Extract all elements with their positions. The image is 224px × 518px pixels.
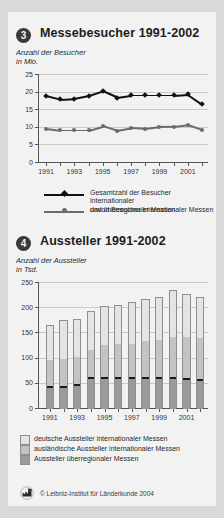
x-axis-tick — [117, 163, 118, 166]
bar-divider — [129, 377, 135, 379]
legend-label: deutsche Aussteller internationaler Mess… — [34, 434, 167, 443]
gridline — [38, 282, 208, 283]
bar-stack — [155, 297, 163, 408]
y-axis-tick-label: 0 — [11, 405, 33, 412]
bar-stack — [128, 302, 136, 408]
ifl-logo-icon — [20, 486, 35, 500]
legend-item: davon Besucher internationaler Messen — [16, 207, 216, 217]
bar-divider — [88, 377, 94, 379]
x-axis-tick-label: 1991 — [37, 414, 63, 421]
bar-divider — [197, 379, 203, 381]
data-point — [43, 93, 49, 99]
bar-segment-deutsch — [115, 378, 121, 409]
y-axis-tick-label: 250 — [11, 279, 33, 286]
bar-stack — [141, 299, 149, 408]
legend-item: deutsche Aussteller internationaler Mess… — [16, 434, 216, 444]
bar-segment-auslaendisch — [115, 344, 121, 378]
bar-segment-auslaendisch — [129, 344, 135, 378]
x-axis-tick-label: 1991 — [33, 168, 59, 175]
bar-stack — [46, 325, 54, 408]
x-axis-tick-label: 1993 — [61, 168, 87, 175]
bar-divider — [156, 377, 162, 379]
chart-block-messebesucher: 3 Messebesucher 1991-2002 Anzahl der Bes… — [8, 26, 216, 246]
bar-stack — [114, 305, 122, 408]
bar-divider — [47, 386, 53, 388]
bar-segment-deutsch — [142, 378, 148, 409]
legend-marker — [62, 208, 67, 213]
data-point — [72, 128, 76, 132]
footer: © Leibniz-Institut für Länderkunde 2004 — [16, 486, 216, 504]
chart3-legend: Gesamtzahl der Besucher internationaler … — [16, 190, 216, 217]
x-axis-tick — [77, 409, 78, 412]
bar-stack — [100, 306, 108, 408]
bar-segment-auslaendisch — [88, 350, 94, 379]
bar-segment-deutsch — [88, 378, 94, 409]
bar-segment-deutsch — [156, 378, 162, 409]
x-axis-tick-label: 1995 — [92, 414, 118, 421]
chart-block-aussteller: 4 Aussteller 1991-2002 Anzahl der Ausste… — [8, 234, 216, 484]
data-point — [172, 125, 176, 129]
gridline — [38, 127, 208, 128]
x-axis-tick — [202, 163, 203, 166]
chart3-number-badge: 3 — [16, 28, 31, 43]
bar-segment-ueberregional — [101, 307, 107, 345]
x-axis-tick — [103, 163, 104, 166]
x-axis-tick — [145, 163, 146, 166]
content-panel: 3 Messebesucher 1991-2002 Anzahl der Bes… — [8, 12, 216, 506]
gridline — [38, 74, 208, 75]
legend-color-swatch — [20, 455, 30, 465]
bar-segment-ueberregional — [88, 312, 94, 350]
y-axis-tick-label: 0 — [11, 159, 33, 166]
x-axis-tick — [188, 163, 189, 166]
data-point — [200, 128, 204, 132]
bar-segment-ueberregional — [170, 291, 176, 338]
infographic-page: 3 Messebesucher 1991-2002 Anzahl der Bes… — [0, 0, 224, 518]
bar-segment-ueberregional — [74, 320, 80, 357]
bar-stack — [196, 297, 204, 408]
x-axis-tick-label: 1993 — [64, 414, 90, 421]
legend-label: davon Besucher internationaler Messen — [90, 206, 213, 214]
y-axis-tick-label: 100 — [11, 354, 33, 361]
bar-divider — [101, 377, 107, 379]
data-point — [186, 123, 190, 127]
x-axis-tick — [74, 163, 75, 166]
legend-item: Aussteller überregionaler Messen — [16, 454, 216, 464]
x-axis-tick — [200, 409, 201, 412]
x-axis-tick — [46, 163, 47, 166]
bar-segment-auslaendisch — [197, 338, 203, 380]
y-axis-tick-label: 15 — [11, 106, 33, 113]
bar-stack — [182, 294, 190, 408]
x-axis-tick-label: 1995 — [90, 168, 116, 175]
bar-divider — [115, 377, 121, 379]
x-axis-tick — [174, 163, 175, 166]
chart4-plot-area: 050100150200250199119931995199719992001 — [8, 278, 216, 428]
data-point — [87, 128, 91, 132]
bar-stack — [59, 320, 67, 408]
bar-segment-auslaendisch — [47, 360, 53, 387]
bar-segment-deutsch — [129, 378, 135, 409]
data-point — [157, 125, 161, 129]
y-axis-tick-label: 150 — [11, 329, 33, 336]
bar-segment-ueberregional — [183, 295, 189, 337]
y-axis-tick-label: 50 — [11, 379, 33, 386]
bar-segment-ueberregional — [47, 326, 53, 360]
bar-segment-auslaendisch — [74, 357, 80, 385]
bar-segment-deutsch — [47, 387, 53, 409]
x-axis-tick — [132, 409, 133, 412]
chart4-legend: deutsche Aussteller internationaler Mess… — [16, 434, 216, 464]
bar-segment-deutsch — [170, 378, 176, 409]
bar-segment-deutsch — [183, 379, 189, 409]
bar-segment-auslaendisch — [60, 359, 66, 387]
x-axis-tick — [105, 409, 106, 412]
bar-segment-ueberregional — [129, 303, 135, 344]
chart3-title: Messebesucher 1991-2002 — [40, 26, 199, 40]
y-axis-tick-label: 25 — [11, 71, 33, 78]
bar-stack — [169, 290, 177, 408]
data-point — [101, 124, 105, 128]
bar-segment-auslaendisch — [101, 345, 107, 378]
bar-segment-ueberregional — [197, 298, 203, 339]
x-axis-tick-label: 1999 — [146, 414, 172, 421]
legend-label: Aussteller überregionaler Messen — [34, 454, 138, 463]
bar-stack — [73, 319, 81, 408]
chart3-header: 3 Messebesucher 1991-2002 — [8, 26, 216, 48]
